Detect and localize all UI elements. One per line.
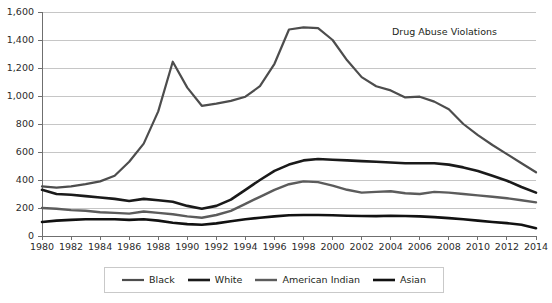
y-axis-tick-label: 1,600 [0, 7, 34, 17]
legend-label: White [215, 275, 243, 285]
y-axis-tick-label: 1,400 [0, 35, 34, 45]
y-axis-tick-label: 200 [0, 203, 34, 213]
legend-label: American Indian [282, 275, 360, 285]
legend-swatch-american-indian [255, 276, 277, 284]
y-axis-tick-label: 800 [0, 119, 34, 129]
legend-swatch-black [122, 276, 144, 284]
y-axis-tick-label: 0 [0, 231, 34, 241]
chart-title: Drug Abuse Violations [392, 26, 497, 37]
legend-entry-white[interactable]: White [188, 275, 243, 285]
x-axis-tick-label: 2014 [516, 242, 552, 252]
legend-entry-american-indian[interactable]: American Indian [255, 275, 360, 285]
y-axis-tick-label: 1,200 [0, 63, 34, 73]
y-axis-tick-label: 400 [0, 175, 34, 185]
legend-label: Black [149, 275, 175, 285]
legend-swatch-white [188, 276, 210, 284]
legend-entry-black[interactable]: Black [122, 275, 175, 285]
y-axis-tick-label: 1,000 [0, 91, 34, 101]
legend-label: Asian [400, 275, 426, 285]
chart-legend: BlackWhiteAmerican IndianAsian [104, 267, 444, 293]
legend-swatch-asian [373, 276, 395, 284]
y-axis-tick-label: 600 [0, 147, 34, 157]
series-line-asian [42, 215, 536, 228]
legend-entry-asian[interactable]: Asian [373, 275, 426, 285]
